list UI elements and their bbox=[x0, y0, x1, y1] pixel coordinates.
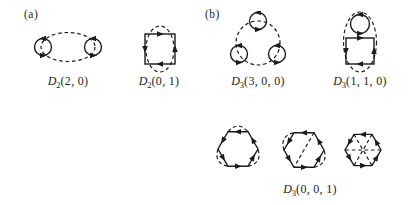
arrowhead-icon bbox=[285, 137, 293, 146]
arrowhead-icon bbox=[249, 136, 257, 145]
arrowhead-icon bbox=[274, 60, 281, 66]
label-args: (1, 1, 0) bbox=[346, 74, 387, 88]
arrowhead-icon bbox=[255, 27, 262, 33]
arrowhead-icon bbox=[90, 53, 97, 59]
arrowhead-icon bbox=[234, 129, 241, 135]
arrowhead-icon bbox=[315, 137, 323, 146]
panel-a-label: (a) bbox=[24, 8, 38, 20]
arrowhead-icon bbox=[157, 31, 164, 37]
arrowhead-icon bbox=[39, 36, 46, 42]
arrowhead-icon bbox=[357, 31, 364, 37]
panel-b-label: (b) bbox=[205, 8, 220, 20]
arrowhead-icon bbox=[346, 154, 354, 163]
label-args: (2, 0) bbox=[61, 74, 89, 88]
label-args: (3, 0, 0) bbox=[244, 74, 285, 88]
label-symbol: D bbox=[333, 74, 342, 88]
arrowhead-icon bbox=[359, 132, 366, 138]
arrowhead-icon bbox=[219, 136, 227, 145]
arrowhead-icon bbox=[172, 45, 178, 52]
interaction-diameter bbox=[354, 134, 372, 165]
fermion-bubble bbox=[351, 15, 370, 34]
diagram-d2-2-0 bbox=[29, 26, 107, 70]
arrowhead-icon bbox=[142, 46, 148, 53]
arrowhead-icon bbox=[235, 164, 242, 170]
fermion-box bbox=[145, 34, 175, 64]
arrowhead-icon bbox=[360, 163, 367, 169]
arrowhead-icon bbox=[357, 35, 364, 41]
diagram-d3-0-0-1-variant2 bbox=[274, 120, 334, 180]
interaction-ring-dashed bbox=[236, 21, 280, 65]
diagram-label-d2-0-1: D2(0, 1) bbox=[104, 74, 214, 90]
diagram-d3-3-0-0 bbox=[228, 11, 288, 73]
interaction-diameter bbox=[354, 134, 372, 165]
diagram-d3-0-0-1-variant3 bbox=[334, 121, 392, 179]
arrowhead-icon bbox=[372, 138, 380, 147]
arrowhead-icon bbox=[89, 36, 96, 42]
label-args: (0, 0, 1) bbox=[296, 182, 337, 196]
arrowhead-icon bbox=[285, 155, 293, 164]
fermion-bubble-lower-left bbox=[231, 46, 248, 63]
label-symbol: D bbox=[48, 74, 57, 88]
fermion-box bbox=[346, 38, 374, 64]
arrowhead-icon bbox=[345, 138, 353, 147]
diagram-label-d3-0-0-1: D3(0, 0, 1) bbox=[255, 182, 365, 198]
interaction-ring-dashed bbox=[41, 33, 95, 62]
fermion-bubble-right bbox=[85, 39, 102, 56]
arrowhead-icon bbox=[301, 165, 308, 171]
arrowhead-icon bbox=[219, 154, 227, 163]
label-symbol: D bbox=[139, 74, 148, 88]
arrowhead-icon bbox=[236, 60, 243, 66]
diagram-label-d3-3-0-0: D3(3, 0, 0) bbox=[203, 74, 313, 90]
figure-canvas: (a) (b) D2(2, 0) D2(0, 1) bbox=[0, 0, 417, 205]
diagram-d3-0-0-1-variant1 bbox=[208, 119, 268, 179]
label-symbol: D bbox=[231, 74, 240, 88]
label-args: (0, 1) bbox=[152, 74, 180, 88]
fermion-hexagon bbox=[218, 132, 258, 167]
diagram-label-d3-1-1-0: D3(1, 1, 0) bbox=[305, 74, 415, 90]
arrowhead-icon bbox=[273, 43, 280, 49]
arrowhead-icon bbox=[373, 153, 381, 162]
fermion-bubble-lower-right bbox=[269, 46, 286, 63]
diagram-d2-0-1 bbox=[138, 24, 182, 74]
fermion-hexagon bbox=[345, 134, 381, 165]
arrowhead-icon bbox=[356, 61, 363, 67]
arrowhead-icon bbox=[315, 154, 323, 163]
arrowhead-icon bbox=[156, 61, 163, 67]
diagram-d3-1-1-0 bbox=[340, 10, 380, 74]
arrowhead-icon bbox=[300, 130, 307, 136]
label-symbol: D bbox=[283, 182, 292, 196]
interaction-chord-diagonal bbox=[294, 133, 314, 168]
arrowhead-icon bbox=[249, 153, 257, 162]
